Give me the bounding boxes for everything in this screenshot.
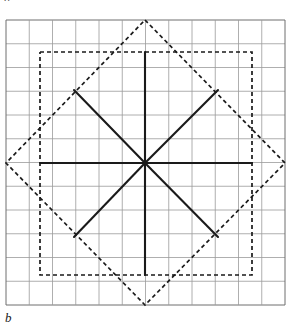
- figure-label-b: b: [5, 311, 12, 324]
- arm-up-right: [145, 90, 218, 163]
- eight-pointed-star-figure: [0, 0, 289, 329]
- arm-down-left: [74, 163, 145, 237]
- arm-up-left: [74, 90, 145, 163]
- figure-panel: a b: [0, 0, 289, 329]
- solid-star-arms: [40, 52, 252, 275]
- arm-down-right: [145, 163, 218, 237]
